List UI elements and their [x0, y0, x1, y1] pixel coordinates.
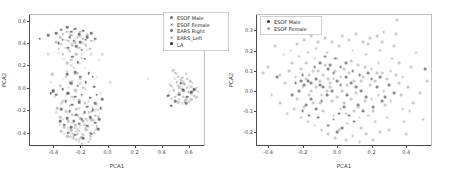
scatter-point [79, 75, 82, 78]
y-tick-label: 0.0 [11, 85, 26, 91]
scatter-point [344, 139, 347, 142]
scatter-point [317, 41, 320, 44]
scatter-point [70, 59, 73, 62]
scatter-point: × [73, 124, 77, 128]
legend-item: ESOF Male [167, 15, 225, 22]
scatter-point [62, 118, 65, 121]
scatter-point [75, 90, 78, 93]
scatter-point [74, 95, 77, 98]
scatter-point [83, 102, 86, 105]
scatter-point [75, 113, 78, 116]
scatter-point [47, 34, 50, 37]
scatter-point [298, 90, 301, 93]
x-tick [337, 146, 338, 148]
scatter-point [372, 139, 375, 142]
x-tick [162, 146, 163, 148]
scatter-point [169, 90, 172, 93]
scatter-point [343, 67, 346, 70]
scatter-point [336, 57, 339, 60]
scatter-point [384, 104, 387, 107]
scatter-point [90, 132, 93, 135]
legend-dot [170, 29, 173, 32]
scatter-point [329, 86, 332, 89]
scatter-point [86, 119, 89, 122]
scatter-point [64, 94, 67, 97]
scatter-point [51, 73, 54, 76]
scatter-point [64, 75, 67, 78]
y-tick [254, 30, 256, 31]
scatter-point [93, 85, 96, 88]
scatter-point [351, 69, 354, 72]
scatter-point [299, 67, 302, 70]
scatter-point [401, 108, 404, 111]
scatter-point [370, 78, 373, 81]
scatter-point [282, 53, 285, 56]
scatter-point [94, 37, 97, 40]
scatter-point [339, 84, 342, 87]
scatter-point [405, 132, 408, 135]
scatter-point [396, 19, 399, 22]
scatter-point [90, 32, 93, 35]
scatter-point [339, 108, 342, 111]
scatter-point [75, 45, 78, 48]
x-tick-label: 0.6 [185, 149, 193, 155]
scatter-point [63, 132, 66, 135]
scatter-point [101, 98, 104, 101]
scatter-point [178, 93, 181, 96]
scatter-point [362, 110, 365, 113]
scatter-point [76, 72, 79, 75]
scatter-point [85, 88, 88, 91]
scatter-point [57, 47, 60, 50]
scatter-point [351, 49, 354, 52]
scatter-point [60, 43, 63, 46]
x-tick-label: 0.0 [104, 149, 112, 155]
scatter-point [287, 69, 290, 72]
scatter-point [310, 90, 313, 93]
scatter-point [305, 61, 308, 64]
scatter-point [294, 82, 297, 85]
scatter-point [79, 78, 82, 81]
scatter-point [179, 85, 182, 88]
scatter-point [331, 41, 334, 44]
scatter-point [336, 80, 339, 83]
scatter-point [170, 104, 173, 107]
scatter-point [89, 97, 92, 100]
scatter-point [337, 128, 340, 131]
y-tick [254, 51, 256, 52]
scatter-point [386, 78, 389, 81]
scatter-point [76, 61, 79, 64]
scatter-point [384, 96, 387, 99]
scatter-point [182, 89, 185, 92]
scatter-point [327, 132, 330, 135]
scatter-point [182, 82, 185, 85]
y-tick-label: -0.1 [238, 108, 253, 114]
scatter-point [344, 76, 347, 79]
scatter-point [93, 40, 96, 43]
scatter-point [362, 41, 365, 44]
scatter-point [91, 123, 94, 126]
scatter-point [308, 114, 311, 117]
scatter-point [377, 94, 380, 97]
scatter-point [79, 41, 82, 44]
scatter-point [389, 69, 392, 72]
scatter-point [301, 110, 304, 113]
scatter-point [379, 49, 382, 52]
scatter-point [72, 98, 75, 101]
scatter-point [325, 51, 328, 54]
legend-marker-dot-icon [264, 26, 273, 33]
scatter-point [85, 44, 88, 47]
scatter-point [337, 112, 340, 115]
scatter-point [353, 110, 356, 113]
scatter-point [83, 111, 86, 114]
legend-item: EARS Right [167, 28, 225, 35]
scatter-point [370, 98, 373, 101]
scatter-point [332, 114, 335, 117]
x-tick [108, 146, 109, 148]
scatter-point [67, 46, 70, 49]
scatter-point [370, 67, 373, 70]
scatter-point [327, 124, 330, 127]
scatter-point [312, 69, 315, 72]
scatter-point: × [168, 82, 172, 86]
scatter-point [78, 122, 81, 125]
scatter-point [74, 134, 77, 137]
